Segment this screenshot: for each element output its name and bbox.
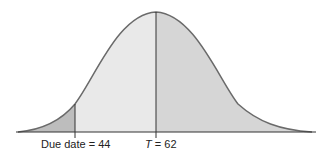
mean-label: T = 62 (145, 138, 177, 150)
left-body-area (75, 12, 156, 132)
t-value: = 62 (152, 138, 177, 150)
right-body-area (156, 12, 312, 132)
t-symbol: T (145, 138, 152, 150)
normal-curve-diagram (0, 0, 316, 156)
left-tail-area (18, 104, 75, 132)
due-date-label: Due date = 44 (41, 138, 110, 150)
